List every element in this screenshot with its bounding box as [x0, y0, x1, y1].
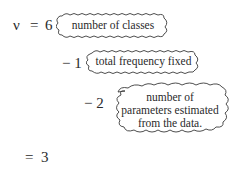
- equals-sign: =: [30, 17, 38, 33]
- annotation-number-of-classes: number of classes: [56, 19, 170, 32]
- cloud-number-of-classes: number of classes: [56, 11, 170, 39]
- cloud-parameters-estimated: number of parameters estimated from the …: [108, 82, 232, 142]
- term-minus-two: − 2: [84, 95, 104, 111]
- annotation-params-line2: parameters estimated: [108, 104, 232, 117]
- term-six: 6: [45, 17, 53, 33]
- annotation-params-line3: from the data.: [108, 117, 232, 130]
- result-value: 3: [41, 149, 49, 165]
- result-equals-sign: =: [25, 149, 33, 165]
- annotation-total-frequency: total frequency fixed: [86, 55, 201, 68]
- nu-symbol: ν: [13, 17, 20, 33]
- cloud-total-frequency: total frequency fixed: [86, 48, 201, 74]
- term-minus-one: − 1: [62, 55, 82, 71]
- annotation-params-line1: number of: [108, 91, 232, 104]
